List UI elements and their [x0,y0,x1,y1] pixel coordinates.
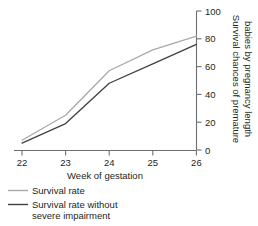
chart-legend: Survival rate Survival rate without seve… [8,185,118,221]
y-tick-label-20: 20 [205,117,216,128]
x-tick-label-23: 23 [60,157,71,168]
x-tick-label-26: 26 [191,157,202,168]
series-line-survival-rate-no-impairment [22,44,196,143]
series-line-survival-rate [22,36,196,140]
chart-figure: 100 80 60 40 20 0 22 23 24 25 26 Week of… [0,0,258,226]
legend-label-survival-rate-no-impairment-line1: Survival rate without [32,199,118,210]
y-tick-label-100: 100 [205,6,221,17]
x-tick-label-25: 25 [148,157,159,168]
x-tick-label-22: 22 [17,157,28,168]
x-tick-label-24: 24 [104,157,115,168]
y-tick-label-60: 60 [205,61,216,72]
legend-label-survival-rate: Survival rate [32,185,85,196]
y-tick-label-40: 40 [205,89,216,100]
legend-label-survival-rate-no-impairment-line2: severe impairment [32,210,110,221]
survival-rate-line-chart: 100 80 60 40 20 0 22 23 24 25 26 Week of… [0,0,258,226]
y-axis-title-line2: babies by pregnancy length [243,21,254,137]
y-tick-label-0: 0 [205,145,210,156]
y-axis-ticks [197,11,202,150]
x-axis-title: Week of gestation [67,170,143,181]
y-axis-title-line1: Survival chances of premature [231,15,242,143]
y-tick-label-80: 80 [205,33,216,44]
x-axis-ticks [22,151,196,156]
